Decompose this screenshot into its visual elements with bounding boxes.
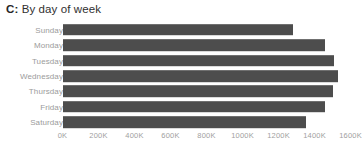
x-tick-label: 200K [89,131,107,140]
bar-row: Thursday [0,84,357,99]
bar-track [63,86,333,98]
x-tick-label: 400K [125,131,143,140]
bar-segment[interactable] [63,24,293,36]
bar-segment[interactable] [63,55,335,67]
bar-segment[interactable] [63,86,333,98]
x-tick-label: 1400K [303,131,326,140]
x-tick-label: 600K [161,131,179,140]
x-tick-label: 0K [58,131,68,140]
bar-category-label: Saturday [30,118,63,127]
x-tick-label: 1600K [339,131,362,140]
bar-row: Saturday [0,115,357,130]
bar-row: Friday [0,99,357,114]
bar-track [63,70,339,82]
bar-track [63,39,326,51]
bar-category-label: Tuesday [32,56,63,65]
bar-category-label: Wednesday [20,71,63,80]
bar-category-label: Friday [40,102,63,111]
bar-row: Tuesday [0,53,357,68]
bar-category-label: Monday [34,41,63,50]
chart-title-key: C: [6,3,18,15]
bar-track [63,24,293,36]
chart-title: C: By day of week [6,3,101,15]
x-tick-label: 800K [197,131,215,140]
bar-segment[interactable] [63,116,306,128]
bar-segment[interactable] [63,101,325,113]
chart-title-text: By day of week [18,3,101,15]
x-tick-label: 1200K [267,131,290,140]
bar-segment[interactable] [63,70,339,82]
x-tick-label: 1000K [231,131,254,140]
bar-row: Monday [0,37,357,52]
bar-row: Sunday [0,22,357,37]
bar-segment[interactable] [63,39,326,51]
bar-track [63,116,306,128]
plot-area: SundayMondayTuesdayWednesdayThursdayFrid… [0,22,357,130]
bar-track [63,101,325,113]
bar-track [63,55,335,67]
x-axis: 0K200K400K600K800K1000K1200K1400K1600K [0,131,357,145]
bar-category-label: Thursday [29,87,63,96]
bar-category-label: Sunday [35,25,63,34]
bar-row: Wednesday [0,68,357,83]
